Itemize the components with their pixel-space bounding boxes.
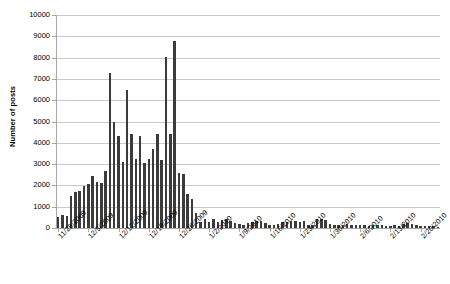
bar	[83, 186, 86, 228]
y-tick-label-1000: 1000	[8, 202, 50, 211]
bar	[126, 90, 129, 228]
y-tick-label-8000: 8000	[8, 53, 50, 62]
posts-over-time-bar-chart: Number of posts 010002000300040005000600…	[0, 0, 450, 284]
bar	[324, 220, 327, 228]
y-tick-label-9000: 9000	[8, 31, 50, 40]
bar	[148, 159, 151, 228]
bar	[91, 176, 94, 228]
bar	[130, 134, 133, 228]
bar	[165, 57, 168, 228]
y-tick-label-0: 0	[8, 223, 50, 232]
bar	[152, 149, 155, 228]
bar	[294, 221, 297, 228]
bar	[122, 162, 125, 228]
bar	[87, 184, 90, 228]
y-axis-title: Number of posts	[8, 67, 17, 167]
bar	[178, 173, 181, 228]
bar	[156, 134, 159, 228]
bar	[109, 73, 112, 228]
bar	[113, 122, 116, 229]
bar	[57, 217, 60, 228]
y-tick-label-2000: 2000	[8, 180, 50, 189]
bar-series	[56, 15, 440, 228]
y-tick-label-10000: 10000	[8, 10, 50, 19]
bar	[182, 174, 185, 228]
bar	[173, 41, 176, 228]
bar	[117, 136, 120, 228]
bar	[204, 219, 207, 228]
